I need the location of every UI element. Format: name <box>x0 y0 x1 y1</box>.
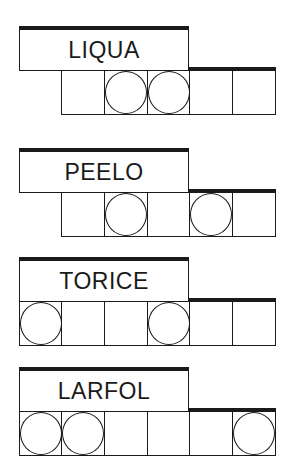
answer-cell[interactable] <box>232 189 276 237</box>
scrambled-word: TORICE <box>19 257 189 302</box>
circle-marker-icon <box>105 71 147 114</box>
answer-cell-circled[interactable] <box>104 70 148 115</box>
circle-marker-icon <box>105 193 147 236</box>
circle-marker-icon <box>148 71 190 114</box>
answer-cell[interactable] <box>189 298 233 346</box>
answer-cell-circled[interactable] <box>147 301 191 346</box>
jumble-puzzle: PEELO <box>19 148 276 238</box>
answer-cells <box>19 301 276 346</box>
answer-cell <box>19 192 63 237</box>
answer-cell[interactable] <box>232 67 276 115</box>
circle-marker-icon <box>20 302 62 345</box>
circle-marker-icon <box>62 412 104 455</box>
answer-cells <box>19 192 276 237</box>
answer-cell-circled[interactable] <box>104 192 148 237</box>
jumble-puzzle: LARFOL <box>19 367 276 457</box>
answer-cell-circled[interactable] <box>19 301 63 346</box>
answer-cell[interactable] <box>61 192 105 237</box>
answer-cells <box>19 411 276 456</box>
answer-cell[interactable] <box>189 67 233 115</box>
answer-cells <box>19 70 276 115</box>
scrambled-word: PEELO <box>19 148 189 193</box>
scrambled-word: LIQUA <box>19 26 189 71</box>
scrambled-word: LARFOL <box>19 367 189 412</box>
answer-cell-circled[interactable] <box>232 408 276 456</box>
answer-cell-circled[interactable] <box>147 70 191 115</box>
answer-cell-circled[interactable] <box>61 411 105 456</box>
circle-marker-icon <box>20 412 62 455</box>
answer-cell-circled[interactable] <box>189 189 233 237</box>
circle-marker-icon <box>148 302 190 345</box>
circle-marker-icon <box>190 193 232 236</box>
answer-cell[interactable] <box>147 411 191 456</box>
answer-cell[interactable] <box>147 192 191 237</box>
answer-cell[interactable] <box>61 301 105 346</box>
answer-cell-circled[interactable] <box>19 411 63 456</box>
answer-cell[interactable] <box>104 301 148 346</box>
answer-cell[interactable] <box>61 70 105 115</box>
jumble-puzzle: TORICE <box>19 257 276 347</box>
answer-cell[interactable] <box>232 298 276 346</box>
answer-cell[interactable] <box>104 411 148 456</box>
jumble-puzzle: LIQUA <box>19 26 276 116</box>
answer-cell <box>19 70 63 115</box>
answer-cell[interactable] <box>189 408 233 456</box>
circle-marker-icon <box>233 412 275 455</box>
